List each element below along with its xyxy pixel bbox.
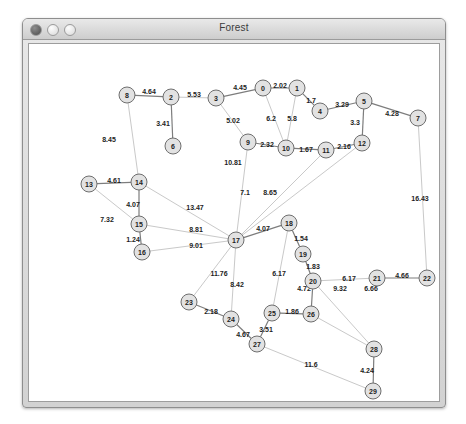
graph-node[interactable]: 4 <box>312 103 328 119</box>
graph-node[interactable]: 2 <box>163 89 179 105</box>
edge-weight-label: 8.81 <box>189 226 203 233</box>
node-label: 22 <box>423 275 431 282</box>
node-label: 6 <box>171 143 175 150</box>
graph-edge <box>146 186 229 236</box>
node-label: 23 <box>185 299 193 306</box>
node-label: 27 <box>253 341 261 348</box>
edge-weight-label: 4.66 <box>395 272 409 279</box>
graph-node[interactable]: 12 <box>354 135 370 151</box>
graph-node[interactable]: 17 <box>228 232 244 248</box>
graph-edge <box>232 248 236 311</box>
graph-node[interactable]: 25 <box>264 305 280 321</box>
edge-weight-label: 9.01 <box>189 242 203 249</box>
graph-edge <box>318 318 367 345</box>
graph-node[interactable]: 27 <box>249 336 265 352</box>
edge-weight-label: 4.07 <box>126 201 140 208</box>
graph-node[interactable]: 11 <box>318 142 334 158</box>
node-label: 20 <box>309 278 317 285</box>
edge-weight-label: 3.51 <box>259 326 273 333</box>
graph-node[interactable]: 22 <box>419 270 435 286</box>
graph-node[interactable]: 20 <box>305 273 321 289</box>
graph-edge <box>140 232 141 244</box>
edge-weight-label: 5.02 <box>226 117 240 124</box>
edge-weight-label: 1.54 <box>294 235 308 242</box>
graph-edge <box>311 289 312 306</box>
edge-weight-label: 6.2 <box>266 115 276 122</box>
node-label: 17 <box>232 237 240 244</box>
graph-node[interactable]: 18 <box>281 215 297 231</box>
node-label: 7 <box>416 115 420 122</box>
edge-weight-label: 10.81 <box>224 159 242 166</box>
graph-edge <box>147 225 228 238</box>
edge-weight-label: 1.83 <box>306 263 320 270</box>
edge-weight-label: 5.53 <box>187 91 201 98</box>
edge-weight-label: 4.67 <box>236 331 250 338</box>
graph-node[interactable]: 14 <box>131 174 147 190</box>
edge-weight-label: 4.24 <box>360 367 374 374</box>
edge-weight-label: 6.17 <box>342 275 356 282</box>
edge-weight-label: 8.42 <box>230 281 244 288</box>
edge-label-layer: 4.643.415.534.452.021.73.294.283.35.026.… <box>100 82 429 374</box>
edge-weight-label: 13.47 <box>186 204 204 211</box>
graph-edge <box>135 95 163 96</box>
graph-edge <box>362 109 363 135</box>
edge-weight-label: 7.1 <box>240 189 250 196</box>
node-label: 9 <box>246 139 250 146</box>
edge-weight-label: 1.24 <box>126 236 140 243</box>
node-label: 2 <box>169 94 173 101</box>
edge-weight-label: 2.18 <box>204 308 218 315</box>
graph-node[interactable]: 24 <box>223 311 239 327</box>
edge-weight-label: 4.45 <box>233 84 247 91</box>
graph-node[interactable]: 28 <box>366 341 382 357</box>
edge-weight-label: 3.3 <box>350 119 360 126</box>
graph-node[interactable]: 3 <box>208 90 224 106</box>
node-label: 26 <box>307 311 315 318</box>
node-label: 19 <box>299 251 307 258</box>
graph-node[interactable]: 10 <box>278 140 294 156</box>
graph-node[interactable]: 29 <box>365 383 381 399</box>
node-label: 3 <box>214 95 218 102</box>
edge-weight-label: 5.8 <box>287 115 297 122</box>
graph-edge <box>224 90 255 97</box>
graph-node[interactable]: 1 <box>289 80 305 96</box>
graph-node[interactable]: 15 <box>131 216 147 232</box>
graph-node[interactable]: 21 <box>369 270 385 286</box>
graph-node[interactable]: 8 <box>119 87 135 103</box>
edge-weight-label: 11.6 <box>304 361 317 368</box>
graph-node[interactable]: 5 <box>356 93 372 109</box>
forest-graph: 4.643.415.534.452.021.73.294.283.35.026.… <box>29 44 439 401</box>
edge-weight-label: 8.45 <box>102 136 116 143</box>
node-label: 11 <box>322 147 330 154</box>
node-label: 13 <box>85 181 93 188</box>
edge-weight-label: 8.65 <box>263 189 277 196</box>
graph-node[interactable]: 26 <box>303 306 319 322</box>
edge-weight-label: 9.32 <box>333 285 347 292</box>
edge-weight-label: 1.7 <box>306 97 316 104</box>
edge-weight-label: 6.17 <box>272 270 286 277</box>
graph-node[interactable]: 16 <box>134 244 150 260</box>
edge-weight-label: 1.86 <box>285 308 299 315</box>
edge-weight-label: 1.67 <box>299 146 313 153</box>
node-label: 8 <box>125 92 129 99</box>
edge-weight-label: 2.02 <box>273 82 287 89</box>
forest-window: Forest 4.643.415.534.452.021.73.294.283.… <box>22 18 446 408</box>
node-label: 25 <box>268 310 276 317</box>
graph-node[interactable]: 13 <box>81 176 97 192</box>
graph-node[interactable]: 6 <box>165 138 181 154</box>
edge-weight-label: 7.32 <box>100 216 114 223</box>
graph-node[interactable]: 0 <box>255 80 271 96</box>
edge-weight-label: 4.64 <box>142 88 156 95</box>
graph-edge <box>242 148 355 235</box>
edge-weight-label: 2.32 <box>260 141 274 148</box>
node-label: 16 <box>138 249 146 256</box>
graph-edge <box>171 105 172 138</box>
window-titlebar[interactable]: Forest <box>23 19 445 40</box>
node-label: 28 <box>370 346 378 353</box>
graph-node[interactable]: 7 <box>410 110 426 126</box>
edge-weight-label: 2.16 <box>337 143 351 150</box>
graph-node[interactable]: 23 <box>181 294 197 310</box>
graph-edge <box>273 231 287 305</box>
graph-node[interactable]: 19 <box>295 246 311 262</box>
graph-node[interactable]: 9 <box>240 134 256 150</box>
node-label: 14 <box>135 179 143 186</box>
